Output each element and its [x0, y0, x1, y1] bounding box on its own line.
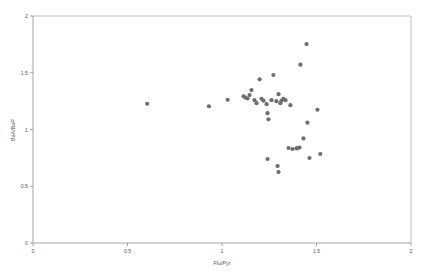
y-tick-label: 1.5	[21, 70, 28, 76]
y-tick-label: 2	[25, 13, 28, 19]
data-point	[307, 156, 311, 160]
y-tick-label: 0	[25, 240, 28, 246]
plot-canvas: 00.511.52 00.511.52 Flu/Pyr BaA/BaP	[0, 0, 425, 273]
data-points-layer	[145, 42, 322, 174]
data-point	[275, 164, 279, 168]
data-point	[265, 157, 269, 161]
data-point	[207, 104, 211, 108]
data-point	[265, 111, 269, 115]
x-tick-label: 2	[410, 248, 413, 254]
data-point	[290, 147, 294, 151]
data-point	[261, 99, 265, 103]
data-point	[226, 98, 230, 102]
scatter-plot-figure: 00.511.52 00.511.52 Flu/Pyr BaA/BaP	[0, 0, 425, 273]
data-point	[247, 93, 251, 97]
data-point	[283, 98, 287, 102]
y-axis-ticks: 00.511.52	[21, 13, 33, 246]
x-tick-label: 1.5	[313, 248, 320, 254]
x-tick-label: 0	[32, 248, 35, 254]
y-axis-label: BaA/BaP	[10, 119, 16, 141]
data-point	[269, 98, 273, 102]
data-point	[297, 145, 301, 149]
data-point	[298, 63, 302, 67]
data-point	[258, 77, 262, 81]
x-tick-label: 0.5	[124, 248, 131, 254]
data-point	[276, 170, 280, 174]
data-point	[315, 108, 319, 112]
data-point	[288, 103, 292, 107]
data-point	[305, 121, 309, 125]
data-point	[254, 101, 258, 105]
x-tick-label: 1	[221, 248, 224, 254]
x-axis-label: Flu/Pyr	[213, 260, 230, 266]
data-point	[286, 146, 290, 150]
plot-frame-top-right	[33, 16, 411, 243]
y-tick-label: 1	[25, 127, 28, 133]
data-point	[249, 88, 253, 92]
data-point	[271, 73, 275, 77]
data-point	[145, 102, 149, 106]
data-point	[318, 152, 322, 156]
data-point	[304, 42, 308, 46]
data-point	[266, 117, 270, 121]
x-axis-ticks: 00.511.52	[32, 243, 413, 254]
data-point	[276, 92, 280, 96]
data-point	[265, 102, 269, 106]
data-point	[274, 99, 278, 103]
y-tick-label: 0.5	[21, 183, 28, 189]
data-point	[301, 136, 305, 140]
